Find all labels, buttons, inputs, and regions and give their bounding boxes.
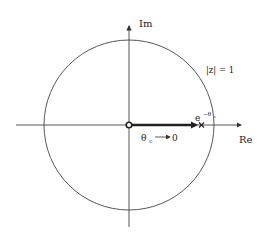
y-axis-label: Im: [139, 18, 153, 29]
complex-plane-diagram: Im Re |z| = 1 e −θ c θ c 0: [0, 0, 264, 238]
origin-marker-icon: [126, 122, 132, 128]
x-axis-label: Re: [239, 134, 253, 145]
limit-label-theta: θ c: [141, 133, 152, 144]
circle-label: |z| = 1: [206, 65, 234, 76]
limit-label-zero: 0: [172, 133, 178, 143]
